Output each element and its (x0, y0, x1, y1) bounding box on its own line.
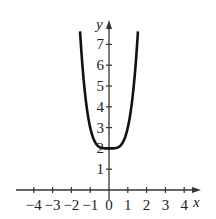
y-tick-label: 6 (97, 57, 105, 73)
y-tick-label: 5 (97, 78, 105, 94)
y-tick-label: 1 (97, 161, 105, 177)
x-tick-label: 3 (162, 197, 170, 213)
x-tick-label: 2 (143, 197, 151, 213)
y-axis-label: y (94, 16, 103, 32)
y-tick-label: 7 (97, 36, 105, 52)
axes: x y (16, 16, 201, 210)
ticks: −4−3−2−1012341234567 (26, 36, 189, 213)
y-tick-label: 4 (97, 99, 105, 115)
x-tick-label: −3 (45, 197, 61, 213)
x-tick-label: −2 (63, 197, 79, 213)
x-tick-label: 1 (124, 197, 132, 213)
x-tick-label: −1 (82, 197, 98, 213)
x-axis-label: x (192, 194, 200, 210)
function-graph: x y −4−3−2−1012341234567 (0, 0, 216, 219)
x-axis-arrow-icon (192, 187, 201, 193)
x-tick-label: 4 (180, 197, 188, 213)
x-tick-label: 0 (105, 197, 113, 213)
y-tick-label: 3 (97, 120, 105, 136)
y-axis-arrow-icon (106, 20, 112, 29)
x-tick-label: −4 (26, 197, 42, 213)
